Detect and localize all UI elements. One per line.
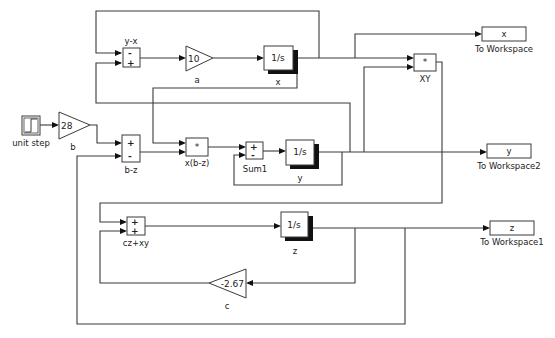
sum-sign-plus: + <box>127 138 135 148</box>
arrow-icon <box>120 219 127 225</box>
wire-y-to-xy[interactable] <box>364 67 412 152</box>
integrator-block-z[interactable]: 1/s z <box>281 212 313 256</box>
integrator-value: 1/s <box>293 147 307 157</box>
arrow-icon <box>407 55 414 61</box>
arrow-icon <box>52 122 59 128</box>
gain-block-c[interactable]: -2.67 c <box>209 269 246 311</box>
sum-block-bz[interactable]: + - b-z <box>122 135 140 175</box>
block-label: z <box>293 246 298 256</box>
product-block-xy[interactable]: * XY <box>414 54 436 84</box>
workspace-variable: y <box>506 146 511 156</box>
sum-block-czxy[interactable]: + + cz+xy <box>123 217 149 248</box>
gain-value: 10 <box>188 54 200 64</box>
block-label: unit step <box>12 138 50 148</box>
arrow-icon <box>279 148 286 154</box>
integrator-block-y[interactable]: 1/s y <box>286 140 319 183</box>
arrow-icon <box>480 149 487 155</box>
sum-sign-minus: - <box>128 151 132 161</box>
block-diagram-canvas: - + y-x 10 a 1/s x * XY x To Workspace u… <box>0 0 555 338</box>
sum-sign-minus: - <box>128 48 132 58</box>
product-value: * <box>423 57 428 67</box>
arrow-icon <box>257 55 264 61</box>
sum-block-sum1[interactable]: + - Sum1 <box>243 142 267 174</box>
step-block-unit-step[interactable]: unit step <box>12 116 50 148</box>
block-label: b-z <box>125 165 138 175</box>
block-label: y <box>297 173 302 183</box>
arrow-icon <box>179 140 186 146</box>
sum-sign-plus: + <box>127 58 135 68</box>
sum-sign-minus: - <box>251 150 255 160</box>
arrow-icon <box>115 60 122 66</box>
arrow-icon <box>246 280 253 286</box>
arrow-icon <box>239 144 246 150</box>
arrow-icon <box>274 223 281 229</box>
product-value: * <box>195 142 200 152</box>
block-label: a <box>194 75 199 85</box>
arrow-icon <box>483 225 490 231</box>
workspace-variable: z <box>510 223 515 233</box>
gain-block-a[interactable]: 10 a <box>186 46 213 85</box>
arrow-icon <box>475 31 482 37</box>
block-label: To Workspace1 <box>479 237 544 247</box>
gain-value: -2.67 <box>221 279 244 289</box>
to-workspace-block-x[interactable]: x To Workspace <box>474 27 533 54</box>
arrow-icon <box>239 152 246 158</box>
arrow-icon <box>179 55 186 61</box>
block-label: c <box>225 301 230 311</box>
wire-c-to-czxy[interactable] <box>100 231 209 283</box>
block-label: Sum1 <box>243 164 267 174</box>
arrow-icon <box>115 140 122 146</box>
workspace-variable: x <box>501 29 506 39</box>
block-label: cz+xy <box>123 238 149 248</box>
to-workspace-block-y[interactable]: y To Workspace2 <box>476 144 541 171</box>
block-label: XY <box>419 74 431 84</box>
integrator-value: 1/s <box>271 53 285 63</box>
block-label: x <box>275 77 280 87</box>
arrow-icon <box>407 64 414 70</box>
arrow-icon <box>120 228 127 234</box>
integrator-value: 1/s <box>287 220 301 230</box>
gain-block-b[interactable]: 28 b <box>59 112 90 152</box>
sum-block-yx[interactable]: - + y-x <box>123 36 140 68</box>
arrow-icon <box>115 153 122 159</box>
wire-xy-to-czxy[interactable] <box>100 62 442 222</box>
block-label: x(b-z) <box>185 158 210 168</box>
sum-sign-plus: + <box>131 226 139 236</box>
to-workspace-block-z[interactable]: z To Workspace1 <box>479 221 544 247</box>
gain-value: 28 <box>61 121 73 131</box>
block-label: b <box>70 142 75 152</box>
arrow-icon <box>179 149 186 155</box>
block-label: y-x <box>125 36 138 46</box>
block-label: To Workspace <box>474 44 533 54</box>
product-block-xbz[interactable]: * x(b-z) <box>185 138 210 168</box>
block-label: To Workspace2 <box>476 161 541 171</box>
arrow-icon <box>115 50 122 56</box>
integrator-block-x[interactable]: 1/s x <box>264 46 298 87</box>
